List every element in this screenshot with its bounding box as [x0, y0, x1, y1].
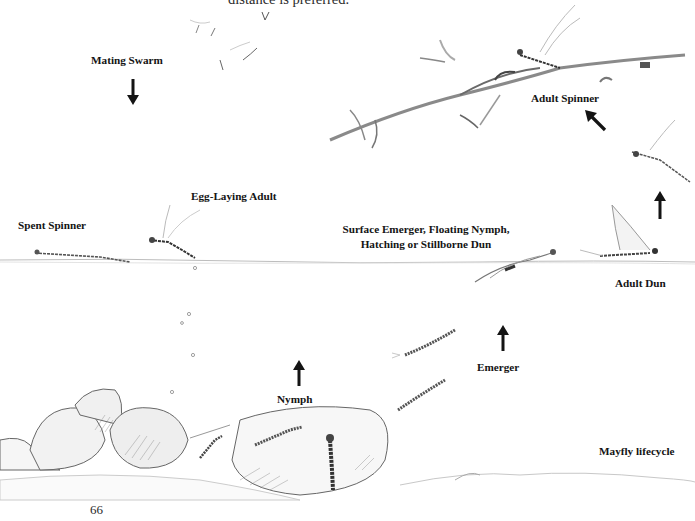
mayfly-lifecycle-illustration [0, 0, 695, 521]
stage-label-mating-swarm: Mating Swarm [91, 53, 163, 68]
stage-label-surface-emerger: Surface Emerger, Floating Nymph, Hatchin… [326, 222, 526, 252]
adult-spinner-on-branch-icon [517, 5, 580, 68]
arrow-up-icon [497, 325, 509, 351]
egg-laying-adult-icon [149, 205, 200, 258]
stage-label-adult-spinner: Adult Spinner [531, 91, 599, 106]
arrow-up-icon [654, 191, 666, 219]
surface-emerger-icon [475, 249, 556, 282]
stage-label-spent-spinner: Spent Spinner [18, 218, 86, 233]
diagram-title: Mayfly lifecycle [599, 444, 674, 459]
stage-label-adult-dun: Adult Dun [615, 276, 666, 291]
spent-spinner-icon [35, 250, 131, 263]
stage-label-surface-emerger-line2: Hatching or Stillborne Dun [326, 237, 526, 252]
stage-label-egg-laying-adult: Egg-Laying Adult [191, 189, 276, 204]
riverbed-rocks-icon [0, 389, 695, 500]
flying-spinner-icon [632, 120, 690, 182]
branch-icon [330, 40, 685, 148]
stage-label-emerger: Emerger [477, 360, 519, 375]
adult-dun-icon [580, 205, 658, 256]
stage-label-nymph: Nymph [277, 392, 312, 407]
stage-label-surface-emerger-line1: Surface Emerger, Floating Nymph, [326, 222, 526, 237]
egg-bubbles-icon [170, 266, 196, 393]
water-surface-line [0, 259, 695, 263]
arrow-down-icon [127, 79, 139, 105]
emerger-nymphs-icon [392, 330, 455, 410]
arrow-up-left-icon [585, 110, 607, 132]
page-number: 66 [90, 502, 103, 518]
arrow-up-icon [293, 360, 305, 386]
mating-swarm-icon [190, 12, 269, 70]
